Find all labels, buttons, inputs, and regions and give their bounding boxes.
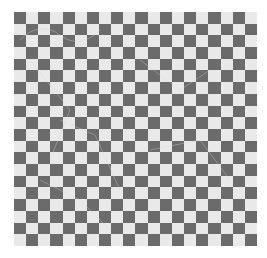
board-square: [160, 59, 172, 71]
board-square: [14, 94, 26, 106]
board-square: [148, 35, 160, 47]
board-square: [184, 199, 196, 211]
board-square: [245, 94, 257, 106]
board-square: [184, 176, 196, 188]
board-square: [99, 176, 111, 188]
board-square: [87, 94, 99, 106]
board-square: [111, 152, 123, 164]
board-square: [111, 199, 123, 211]
board-square: [196, 211, 208, 223]
board-square: [63, 152, 75, 164]
board-square: [184, 234, 196, 246]
board-square: [38, 152, 50, 164]
board-square: [14, 117, 26, 129]
board-square: [160, 199, 172, 211]
board-square: [160, 35, 172, 47]
board-square: [75, 12, 87, 24]
board-square: [123, 223, 135, 235]
board-square: [221, 187, 233, 199]
board-square: [38, 12, 50, 24]
board-square: [87, 70, 99, 82]
board-square: [111, 164, 123, 176]
board-square: [172, 12, 184, 24]
board-square: [221, 176, 233, 188]
board-square: [38, 211, 50, 223]
board-square: [50, 199, 62, 211]
board-square: [50, 164, 62, 176]
board-square: [135, 141, 147, 153]
board-square: [63, 176, 75, 188]
board-square: [50, 70, 62, 82]
board-square: [172, 164, 184, 176]
board-square: [221, 82, 233, 94]
board-square: [148, 106, 160, 118]
board-square: [38, 70, 50, 82]
board-square: [160, 70, 172, 82]
board-square: [111, 187, 123, 199]
board-square: [233, 35, 245, 47]
board-square: [14, 35, 26, 47]
board-square: [245, 59, 257, 71]
board-square: [123, 129, 135, 141]
board-square: [50, 141, 62, 153]
board-square: [26, 152, 38, 164]
board-square: [99, 234, 111, 246]
board-square: [99, 211, 111, 223]
board-square: [38, 141, 50, 153]
board-square: [99, 106, 111, 118]
board-square: [196, 141, 208, 153]
board-square: [111, 176, 123, 188]
board-square: [184, 82, 196, 94]
board-square: [63, 94, 75, 106]
board-square: [245, 24, 257, 36]
board-square: [233, 70, 245, 82]
board-square: [63, 141, 75, 153]
board-square: [196, 12, 208, 24]
board-square: [160, 234, 172, 246]
board-square: [221, 223, 233, 235]
board-square: [50, 59, 62, 71]
board-square: [221, 12, 233, 24]
board-square: [245, 35, 257, 47]
board-square: [75, 59, 87, 71]
board-square: [233, 106, 245, 118]
board-square: [63, 199, 75, 211]
board-square: [50, 12, 62, 24]
board-square: [233, 141, 245, 153]
board-square: [75, 24, 87, 36]
board-square: [148, 12, 160, 24]
board-square: [148, 94, 160, 106]
board-square: [160, 47, 172, 59]
board-square: [172, 35, 184, 47]
board-square: [14, 59, 26, 71]
board-square: [26, 199, 38, 211]
board-square: [50, 94, 62, 106]
board-square: [184, 59, 196, 71]
board-square: [196, 129, 208, 141]
board-square: [87, 223, 99, 235]
board-square: [123, 187, 135, 199]
board-square: [99, 94, 111, 106]
board-square: [172, 223, 184, 235]
board-square: [14, 234, 26, 246]
board-square: [196, 234, 208, 246]
board-square: [184, 187, 196, 199]
board-square: [75, 199, 87, 211]
board-square: [208, 106, 220, 118]
board-square: [50, 47, 62, 59]
board-square: [172, 234, 184, 246]
board-square: [38, 129, 50, 141]
board-square: [38, 187, 50, 199]
board-square: [172, 129, 184, 141]
board-square: [14, 129, 26, 141]
board-square: [50, 106, 62, 118]
board-square: [50, 24, 62, 36]
board-square: [14, 24, 26, 36]
board-square: [99, 117, 111, 129]
board-square: [14, 82, 26, 94]
board-square: [245, 70, 257, 82]
board-square: [26, 211, 38, 223]
board-square: [75, 117, 87, 129]
board-square: [75, 35, 87, 47]
board-square: [123, 164, 135, 176]
